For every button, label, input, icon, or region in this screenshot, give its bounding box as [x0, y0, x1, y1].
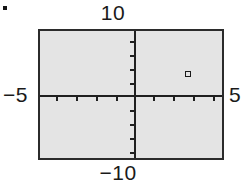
axis-label-bottom: −10 [99, 162, 136, 183]
x-axis-tick [56, 97, 58, 101]
x-axis-tick [116, 97, 118, 101]
plot-area [40, 31, 222, 158]
x-axis-tick [153, 97, 155, 101]
x-axis-tick [96, 97, 98, 101]
y-axis-tick [130, 69, 134, 71]
plot-frame [38, 29, 224, 160]
figure-canvas: 10 −5 5 −10 [0, 0, 241, 184]
y-axis-tick [130, 41, 134, 43]
y-axis-tick [130, 83, 134, 85]
x-axis-tick [213, 97, 215, 101]
axis-label-right: 5 [229, 84, 241, 105]
y-axis [134, 31, 136, 158]
axis-label-left: −5 [3, 84, 28, 105]
data-point-marker[interactable] [185, 71, 191, 77]
y-axis-tick [130, 152, 134, 154]
y-axis-tick [130, 55, 134, 57]
x-axis-tick [173, 97, 175, 101]
x-axis-tick [76, 97, 78, 101]
y-axis-tick [130, 138, 134, 140]
axis-label-top: 10 [101, 2, 125, 23]
x-axis-tick [193, 97, 195, 101]
y-axis-tick [130, 110, 134, 112]
y-axis-tick [130, 124, 134, 126]
list-bullet-icon [3, 6, 7, 10]
